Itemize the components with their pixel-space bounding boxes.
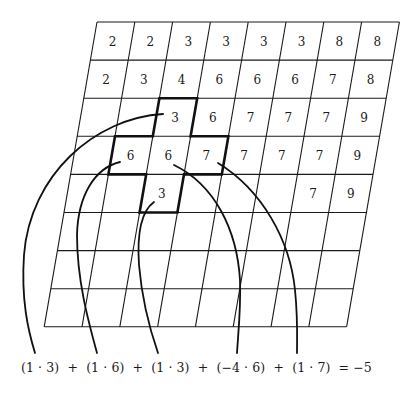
grid-cell-value: 7 (240, 149, 248, 163)
formula-text: (1 · 3) + (1 · 6) + (1 · 3) + (−4 · 6) +… (21, 360, 372, 375)
grid-cell-value: 7 (202, 149, 210, 163)
grid-cell-value: 7 (309, 187, 317, 201)
grid-cell-value: 6 (291, 73, 299, 87)
convolution-diagram: 22333388234666783677796677779379 (1 · 3)… (0, 0, 413, 397)
grid-cell-value: 7 (285, 111, 293, 125)
grid-cell-value: 2 (109, 35, 117, 49)
grid-cell-value: 2 (102, 73, 110, 87)
connector-curves (23, 114, 297, 353)
grid-cell-value: 3 (158, 187, 166, 201)
grid-cell-value: 9 (347, 187, 355, 201)
grid-cell-value: 6 (165, 149, 173, 163)
grid-cell-value: 6 (216, 73, 224, 87)
connector-curve-2 (77, 162, 120, 353)
grid-cell-value: 8 (373, 35, 381, 49)
grid-cell-value: 7 (247, 111, 255, 125)
grid-cell-value: 6 (253, 73, 261, 87)
grid-cell-value: 9 (360, 111, 368, 125)
grid-cell-value: 3 (171, 111, 179, 125)
grid-cell-value: 3 (140, 73, 148, 87)
grid-cell-value: 7 (322, 111, 330, 125)
grid-cell-value: 3 (184, 35, 192, 49)
grid-cell-value: 7 (278, 149, 286, 163)
connector-curve-5 (218, 163, 297, 353)
grid-cell-value: 6 (209, 111, 217, 125)
connector-curve-1 (23, 114, 163, 353)
grid-cell-value: 3 (260, 35, 268, 49)
grid-cell-value: 3 (222, 35, 230, 49)
grid-cell-value: 9 (354, 149, 362, 163)
grid-cell-value: 2 (147, 35, 155, 49)
grid-cell-value: 7 (329, 73, 337, 87)
grid-cell-value: 4 (178, 73, 186, 87)
grid-cell-value: 8 (367, 73, 375, 87)
grid-cell-value: 6 (127, 149, 135, 163)
grid-cell-value: 8 (336, 35, 344, 49)
diagram-canvas: 22333388234666783677796677779379 (0, 0, 413, 397)
grid-cell-value: 3 (298, 35, 306, 49)
connector-curve-3 (138, 202, 158, 353)
grid-cell-value: 7 (316, 149, 324, 163)
